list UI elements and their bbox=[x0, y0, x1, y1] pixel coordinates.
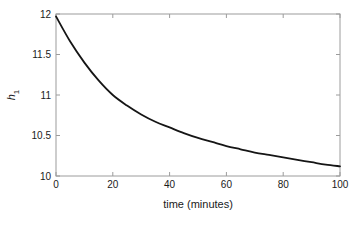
figure-canvas: 0204060801001010.51111.512 time (minutes… bbox=[0, 0, 359, 226]
y-tick-label: 11.5 bbox=[32, 49, 51, 60]
x-tick-label: 60 bbox=[221, 179, 233, 190]
y-tick-label: 10 bbox=[40, 171, 52, 182]
plot-svg: 0204060801001010.51111.512 bbox=[0, 0, 359, 226]
x-axis-label: time (minutes) bbox=[56, 198, 340, 210]
x-tick-label: 0 bbox=[53, 179, 59, 190]
y-tick-label: 11 bbox=[41, 90, 52, 101]
curve-h1 bbox=[56, 16, 340, 166]
x-tick-label: 80 bbox=[278, 179, 290, 190]
y-axis-label-text: h1 bbox=[5, 90, 20, 101]
x-tick-label: 100 bbox=[332, 179, 349, 190]
y-tick-label: 10.5 bbox=[32, 130, 52, 141]
ylabel-symbol: h bbox=[5, 94, 17, 100]
axes-box bbox=[56, 14, 340, 176]
ylabel-subscript: 1 bbox=[12, 90, 21, 94]
x-tick-label: 40 bbox=[164, 179, 176, 190]
y-tick-label: 12 bbox=[40, 9, 52, 20]
x-tick-label: 20 bbox=[107, 179, 119, 190]
